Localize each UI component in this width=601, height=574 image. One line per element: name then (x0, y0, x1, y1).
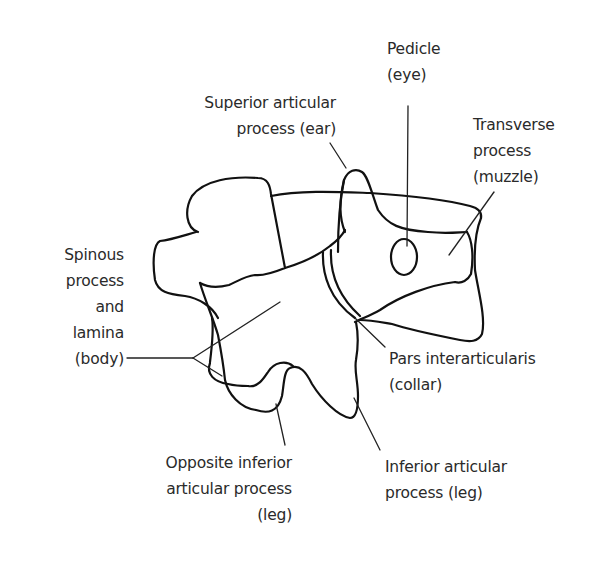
label-inferior-line2: process (leg) (385, 480, 507, 506)
label-spinous-line5: (body) (20, 346, 124, 372)
label-pedicle-line1: Pedicle (387, 36, 440, 62)
label-pars: Pars interarticularis (collar) (389, 346, 536, 398)
label-pars-line2: (collar) (389, 372, 536, 398)
label-superior-line2: process (ear) (168, 116, 336, 142)
label-spinous-line2: process (20, 268, 124, 294)
collar-line-inner (331, 250, 360, 316)
spinous-left-line (210, 318, 213, 362)
leader-spinous-up (193, 302, 280, 358)
label-opposite-inferior: Opposite inferior articular process (leg… (110, 450, 292, 528)
muzzle-right-edge (360, 218, 483, 341)
leader-superior-articular (330, 143, 346, 168)
pedicle-eye (391, 239, 417, 275)
label-spinous: Spinous process and lamina (body) (20, 242, 124, 372)
label-pedicle: Pedicle (eye) (387, 36, 440, 88)
label-spinous-line1: Spinous (20, 242, 124, 268)
label-spinous-line4: lamina (20, 320, 124, 346)
label-opposite-line3: (leg) (110, 502, 292, 528)
label-spinous-line3: and (20, 294, 124, 320)
label-transverse-line2: process (473, 138, 555, 164)
label-pars-line1: Pars interarticularis (389, 346, 536, 372)
leader-inferior-articular (354, 398, 380, 450)
collar-line-outer (323, 252, 355, 318)
scottie-dog-vertebra-diagram: Pedicle (eye) Superior articular process… (0, 0, 601, 574)
label-superior-articular: Superior articular process (ear) (168, 90, 336, 142)
leader-opposite-inferior (276, 404, 285, 445)
belly-line (209, 363, 248, 386)
label-opposite-line1: Opposite inferior (110, 450, 292, 476)
label-superior-line1: Superior articular (168, 90, 336, 116)
spinous-upper-block (187, 178, 285, 287)
label-transverse-line3: (muzzle) (473, 164, 555, 190)
label-inferior-line1: Inferior articular (385, 454, 507, 480)
label-pedicle-line2: (eye) (387, 62, 440, 88)
label-transverse-line1: Transverse (473, 112, 555, 138)
label-transverse: Transverse process (muzzle) (473, 112, 555, 190)
leader-spinous-down (193, 358, 222, 376)
leader-pedicle (407, 106, 408, 246)
label-opposite-line2: articular process (110, 476, 292, 502)
label-inferior-articular: Inferior articular process (leg) (385, 454, 507, 506)
lamina-lower-curve (285, 230, 345, 268)
